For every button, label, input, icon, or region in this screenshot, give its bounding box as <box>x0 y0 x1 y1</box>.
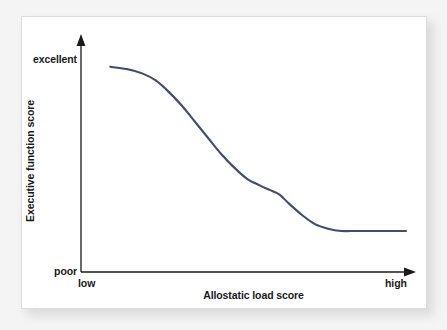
y-axis-arrow-icon <box>77 34 86 46</box>
figure-root: excellent poor low high Allostatic load … <box>0 0 447 330</box>
x-axis-title: Allostatic load score <box>0 289 447 301</box>
x-axis-left-tick-label: low <box>78 277 95 289</box>
y-axis-bottom-tick-label: poor <box>54 265 77 277</box>
y-axis-top-tick-label: excellent <box>33 53 77 65</box>
y-axis-title: Executive function score <box>24 0 36 100</box>
executive-function-curve <box>110 67 406 231</box>
y-axis-title-text: Executive function score <box>24 100 36 222</box>
chart-plot-area <box>0 0 447 330</box>
x-axis-right-tick-label: high <box>385 277 407 289</box>
x-axis-arrow-icon <box>404 268 416 277</box>
